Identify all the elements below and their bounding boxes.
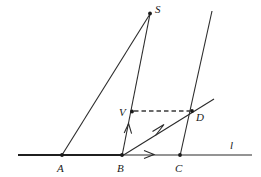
point-label-V: V xyxy=(119,106,127,118)
point-B-dot xyxy=(120,153,124,157)
segment-A-to-S xyxy=(62,14,150,155)
point-A-dot xyxy=(60,153,64,157)
ray-B-through-D xyxy=(122,99,214,156)
point-label-B: B xyxy=(117,162,124,174)
point-V-dot xyxy=(130,110,134,114)
point-label-S: S xyxy=(155,3,161,15)
geometry-diagram: S V D A B C l xyxy=(0,0,261,177)
point-D-dot xyxy=(190,109,194,113)
point-C-dot xyxy=(178,153,182,157)
point-label-C: C xyxy=(175,162,183,174)
line-label-l: l xyxy=(230,139,233,151)
point-S-dot xyxy=(148,12,152,16)
segment-C-upward xyxy=(180,11,212,156)
geometry-canvas: S V D A B C l xyxy=(0,0,261,177)
point-label-A: A xyxy=(56,162,64,174)
point-label-D: D xyxy=(195,111,204,123)
segment-B-to-S xyxy=(122,14,150,156)
